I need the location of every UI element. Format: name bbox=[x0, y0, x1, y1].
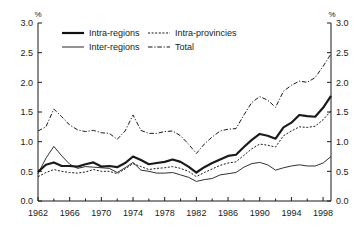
x-tick-label: 1974 bbox=[123, 208, 143, 218]
y-tick-label-right: 0.0 bbox=[336, 196, 349, 206]
y-axis-unit-right: % bbox=[328, 10, 335, 19]
legend-label: Intra-provincies bbox=[175, 28, 237, 38]
y-tick-label-right: 2.0 bbox=[336, 78, 349, 88]
legend-label: Total bbox=[175, 42, 194, 52]
series-line bbox=[38, 54, 331, 154]
chart-canvas: % % 0.00.00.50.51.01.01.51.52.02.02.52.5… bbox=[0, 0, 364, 233]
chart-series bbox=[38, 54, 331, 182]
x-tick-label: 1986 bbox=[218, 208, 238, 218]
y-tick-label-left: 1.5 bbox=[20, 107, 33, 117]
y-tick-label-left: 2.5 bbox=[20, 48, 33, 58]
legend-label: Inter-regions bbox=[89, 42, 140, 52]
y-tick-label-right: 3.0 bbox=[336, 18, 349, 28]
x-tick-label: 1978 bbox=[155, 208, 175, 218]
y-tick-label-left: 0.5 bbox=[20, 167, 33, 177]
y-tick-label-left: 0.0 bbox=[20, 196, 33, 206]
y-tick-label-left: 3.0 bbox=[20, 18, 33, 28]
x-tick-label: 1994 bbox=[281, 208, 301, 218]
y-axis-unit-left: % bbox=[34, 10, 41, 19]
y-tick-label-left: 2.0 bbox=[20, 78, 33, 88]
x-tick-label: 1998 bbox=[313, 208, 333, 218]
legend-label: Intra-regions bbox=[89, 28, 140, 38]
series-line bbox=[38, 96, 331, 173]
y-tick-label-right: 2.5 bbox=[336, 48, 349, 58]
y-tick-label-right: 1.0 bbox=[336, 137, 349, 147]
y-tick-label-right: 1.5 bbox=[336, 107, 349, 117]
x-tick-label: 1962 bbox=[28, 208, 48, 218]
x-tick-label: 1982 bbox=[186, 208, 206, 218]
x-tick-label: 1990 bbox=[250, 208, 270, 218]
line-chart: % % 0.00.00.50.51.01.01.51.52.02.02.52.5… bbox=[0, 0, 364, 233]
x-tick-label: 1970 bbox=[91, 208, 111, 218]
chart-legend: Intra-regionsIntra-provinciesInter-regio… bbox=[62, 28, 237, 52]
y-tick-label-left: 1.0 bbox=[20, 137, 33, 147]
x-tick-label: 1966 bbox=[60, 208, 80, 218]
y-tick-label-right: 0.5 bbox=[336, 167, 349, 177]
